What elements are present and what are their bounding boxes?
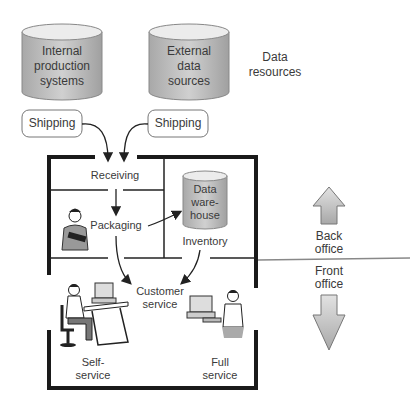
label-line: service xyxy=(195,369,245,382)
label-line: Internal xyxy=(22,44,102,59)
label-line: Full xyxy=(195,356,245,369)
full-service-label: Full service xyxy=(195,356,245,382)
external-data-label: External data sources xyxy=(149,44,229,89)
data-resources-label: Data resources xyxy=(240,50,310,80)
packaging-label: Packaging xyxy=(86,219,146,232)
front-office-arrow-icon xyxy=(313,295,345,350)
label-line: ware- xyxy=(183,196,227,209)
label-line: External xyxy=(149,44,229,59)
back-office-label: Back office xyxy=(304,230,354,256)
label-line: service xyxy=(128,298,192,311)
inventory-label: Inventory xyxy=(177,235,233,248)
label-line: Self- xyxy=(68,356,118,369)
label-line: sources xyxy=(149,74,229,89)
label-line: house xyxy=(183,209,227,222)
label-line: Data xyxy=(240,50,310,65)
label-line: resources xyxy=(240,65,310,80)
internal-production-label: Internal production systems xyxy=(22,44,102,89)
shipping-label-external: Shipping xyxy=(148,117,208,130)
full-service-person-icon xyxy=(187,290,244,338)
label-line: systems xyxy=(22,74,102,89)
back-office-arrow-icon xyxy=(313,187,345,224)
office-divider xyxy=(258,258,410,260)
front-office-label: Front office xyxy=(304,265,354,291)
shipping-label-internal: Shipping xyxy=(22,117,82,130)
label-line: office xyxy=(304,278,354,291)
label-line: Customer xyxy=(128,285,192,298)
label-line: data xyxy=(149,59,229,74)
self-service-person-icon xyxy=(60,283,128,347)
data-warehouse-label: Data ware- house xyxy=(183,183,227,222)
receiving-label: Receiving xyxy=(80,169,150,182)
label-line: office xyxy=(304,243,354,256)
label-line: production xyxy=(22,59,102,74)
customer-service-label: Customer service xyxy=(128,285,192,311)
packaging-worker-icon xyxy=(62,209,88,251)
label-line: Data xyxy=(183,183,227,196)
self-service-label: Self- service xyxy=(68,356,118,382)
label-line: service xyxy=(68,369,118,382)
